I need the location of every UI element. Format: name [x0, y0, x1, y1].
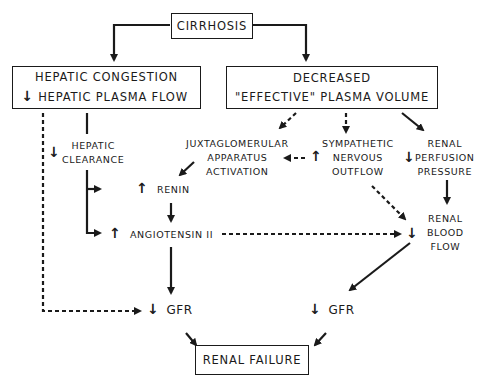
- renal-failure-label: RENAL FAILURE: [203, 351, 302, 370]
- perfusion-line2: PERFUSION: [415, 151, 475, 165]
- node-cirrhosis: CIRRHOSIS: [171, 13, 253, 39]
- blood-flow-line2: BLOOD: [427, 226, 464, 240]
- renin-label: RENIN: [157, 184, 190, 195]
- blood-flow-line3: FLOW: [427, 240, 464, 254]
- sympathetic-line2: NERVOUS: [322, 151, 394, 165]
- node-renal-failure: RENAL FAILURE: [195, 345, 309, 375]
- jga-line2: APPARATUS: [186, 151, 289, 165]
- down-arrow-icon: ↓: [403, 150, 415, 164]
- hepatic-clearance-line1: HEPATIC: [62, 139, 124, 153]
- node-hepatic-congestion: HEPATIC CONGESTION ↓ HEPATIC PLASMA FLOW: [12, 66, 201, 109]
- hepatic-plasma-flow-label: HEPATIC PLASMA FLOW: [38, 90, 188, 104]
- down-arrow-icon: ↓: [21, 88, 34, 104]
- jga-line3: ACTIVATION: [186, 165, 289, 179]
- up-arrow-icon: ↑: [109, 225, 121, 241]
- blood-flow-line1: RENAL: [427, 212, 464, 226]
- gfr-right-label: GFR: [329, 303, 355, 317]
- perfusion-line3: PRESSURE: [415, 165, 475, 179]
- connector-arrows: [0, 0, 488, 389]
- node-renin: ↑ RENIN: [136, 181, 190, 197]
- sympathetic-line3: OUTFLOW: [322, 165, 394, 179]
- node-gfr-right: ↓ GFR: [309, 302, 355, 317]
- perfusion-line1: RENAL: [415, 137, 475, 151]
- node-renal-perfusion-pressure: RENAL PERFUSION PRESSURE: [415, 137, 475, 179]
- up-arrow-icon: ↑: [310, 149, 322, 163]
- hepatic-congestion-line1: HEPATIC CONGESTION: [35, 68, 178, 87]
- up-arrow-icon: ↑: [136, 180, 148, 196]
- node-gfr-left: ↓ GFR: [147, 302, 193, 317]
- node-sympathetic-outflow: SYMPATHETIC NERVOUS OUTFLOW: [322, 137, 394, 179]
- sympathetic-line1: SYMPATHETIC: [322, 137, 394, 151]
- down-arrow-icon: ↓: [406, 226, 418, 240]
- angiotensin-label: ANGIOTENSIN II: [130, 229, 213, 240]
- jga-line1: JUXTAGLOMERULAR: [186, 137, 289, 151]
- node-juxtaglomerular: JUXTAGLOMERULAR APPARATUS ACTIVATION: [186, 137, 289, 179]
- hepatic-clearance-line2: CLEARANCE: [62, 153, 124, 167]
- cirrhosis-renal-failure-diagram: CIRRHOSIS HEPATIC CONGESTION ↓ HEPATIC P…: [0, 0, 488, 389]
- cirrhosis-label: CIRRHOSIS: [177, 17, 247, 36]
- node-decreased-plasma-volume: DECREASED "EFFECTIVE" PLASMA VOLUME: [226, 66, 438, 109]
- node-hepatic-clearance: ↓ HEPATIC CLEARANCE: [48, 139, 124, 167]
- gfr-left-label: GFR: [167, 303, 193, 317]
- down-arrow-icon: ↓: [48, 145, 60, 159]
- node-angiotensin-ii: ↑ ANGIOTENSIN II: [109, 226, 213, 242]
- down-arrow-icon: ↓: [147, 301, 159, 317]
- down-arrow-icon: ↓: [309, 301, 321, 317]
- decreased-line2: "EFFECTIVE" PLASMA VOLUME: [235, 88, 429, 107]
- node-renal-blood-flow: RENAL BLOOD FLOW: [427, 212, 464, 254]
- decreased-line1: DECREASED: [293, 69, 371, 88]
